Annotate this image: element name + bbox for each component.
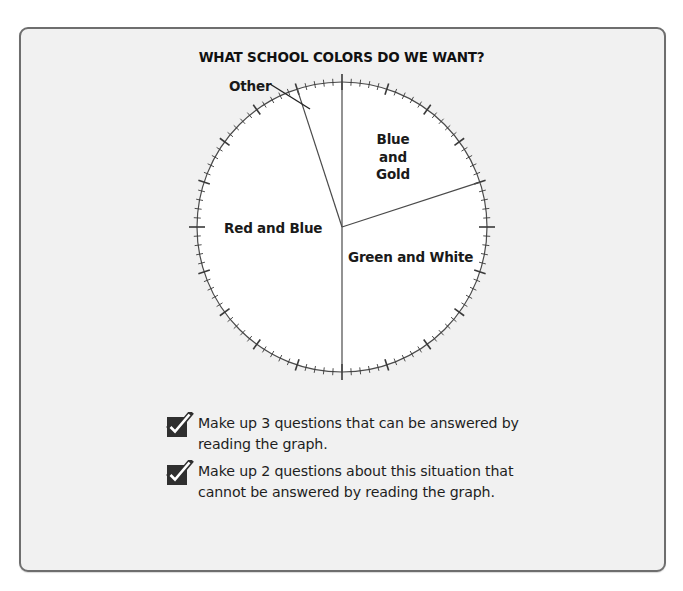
slice-label-other: Other	[229, 78, 271, 94]
label-line: and	[360, 149, 426, 167]
slice-label-red-and-blue: Red and Blue	[224, 220, 322, 236]
checkbox-checked-icon	[166, 460, 194, 486]
checkbox-checked-icon	[166, 412, 194, 438]
task-text: Make up 2 questions about this situation…	[198, 461, 528, 503]
label-line: Blue	[360, 131, 426, 149]
task-text: Make up 3 questions that can be answered…	[198, 413, 528, 455]
slice-label-blue-and-gold: Blue and Gold	[360, 131, 426, 184]
label-line: Gold	[360, 166, 426, 184]
slice-label-green-and-white: Green and White	[348, 249, 473, 265]
